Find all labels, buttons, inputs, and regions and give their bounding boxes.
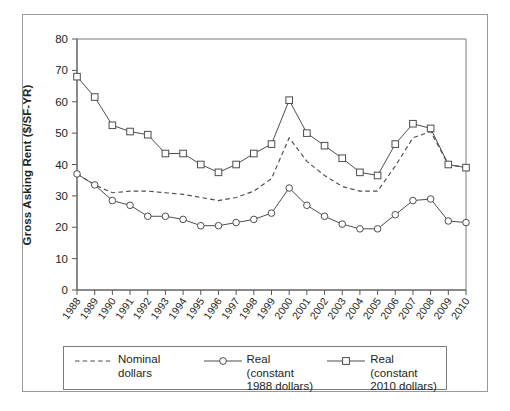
y-axis-tick-label: 80 <box>55 33 68 45</box>
data-point-marker <box>144 213 151 220</box>
x-axis-tick-label: 2005 <box>360 295 383 321</box>
x-axis-tick-label: 2001 <box>289 295 312 321</box>
x-axis-tick-label: 1992 <box>130 295 153 321</box>
x-axis-tick-label: 1989 <box>77 295 100 321</box>
y-axis-tick-label: 30 <box>55 190 68 202</box>
data-point-marker <box>374 226 381 233</box>
x-axis-tick-label: 2000 <box>272 295 295 321</box>
data-point-marker <box>109 197 116 204</box>
figure: Gross Asking Rent ($/SF-YR) 010203040506… <box>0 0 510 411</box>
data-point-marker <box>357 169 364 176</box>
data-point-marker <box>233 219 240 226</box>
x-axis-tick-label: 2009 <box>431 295 454 321</box>
data-point-marker <box>304 202 311 209</box>
x-axis-tick-label: 2006 <box>378 295 401 321</box>
data-point-marker <box>144 131 151 138</box>
data-point-marker <box>251 216 258 223</box>
series-line-2 <box>77 77 466 176</box>
data-point-marker <box>339 221 346 228</box>
data-point-marker <box>410 120 417 127</box>
data-point-marker <box>286 185 293 192</box>
data-point-marker <box>109 122 116 129</box>
data-point-marker <box>357 226 364 233</box>
data-point-marker <box>339 155 346 162</box>
data-point-marker <box>162 150 169 157</box>
data-point-marker <box>197 161 204 168</box>
data-point-marker <box>251 150 258 157</box>
data-point-marker <box>91 182 98 189</box>
data-point-marker <box>321 142 328 149</box>
data-point-marker <box>286 97 293 104</box>
data-point-marker <box>74 73 81 80</box>
data-point-marker <box>427 196 434 203</box>
data-point-marker <box>162 213 169 220</box>
y-axis-tick-label: 0 <box>62 284 68 296</box>
data-point-marker <box>268 141 275 148</box>
data-point-marker <box>445 161 452 168</box>
data-point-marker <box>127 128 134 135</box>
data-point-marker <box>74 171 81 178</box>
data-point-marker <box>392 141 399 148</box>
plot-frame <box>77 39 466 290</box>
data-point-marker <box>215 169 222 176</box>
data-point-marker <box>463 219 470 226</box>
x-axis-tick-label: 2003 <box>325 295 348 321</box>
data-point-marker <box>197 222 204 229</box>
data-point-marker <box>233 161 240 168</box>
x-axis-tick-label: 2008 <box>413 295 436 321</box>
data-point-marker <box>180 216 187 223</box>
legend-item-nominal-dollars: Nominal dollars <box>74 353 191 380</box>
data-point-marker <box>180 150 187 157</box>
y-axis-tick-label: 50 <box>55 127 68 139</box>
data-point-marker <box>215 222 222 229</box>
legend-sample-dashed-icon <box>74 354 114 368</box>
legend-label-real-2010: Real (constant 2010 dollars) <box>370 353 438 394</box>
data-point-marker <box>410 197 417 204</box>
x-axis-tick-label: 2007 <box>395 295 418 321</box>
data-point-marker <box>392 211 399 218</box>
legend-sample-circle-icon <box>203 354 243 368</box>
x-axis-tick-label: 1996 <box>201 295 224 321</box>
legend-item-real-2010: Real (constant 2010 dollars) <box>326 353 438 394</box>
data-point-marker <box>463 164 470 171</box>
legend-label-nominal-dollars: Nominal dollars <box>118 353 191 380</box>
x-axis-tick-label: 2010 <box>448 295 471 321</box>
data-point-marker <box>427 125 434 132</box>
x-axis-tick-label: 1988 <box>59 295 82 321</box>
data-point-marker <box>304 130 311 137</box>
data-point-marker <box>374 172 381 179</box>
chart-legend: Nominal dollars Real (constant 1988 doll… <box>63 346 447 390</box>
legend-label-real-1988: Real (constant 1988 dollars) <box>247 353 315 394</box>
y-axis-tick-label: 60 <box>55 96 68 108</box>
x-axis-tick-label: 1990 <box>95 295 118 321</box>
data-point-marker <box>321 213 328 220</box>
data-point-marker <box>445 218 452 225</box>
series-line-1 <box>77 174 466 229</box>
y-axis-tick-label: 70 <box>55 64 68 76</box>
x-axis-tick-label: 1993 <box>148 295 171 321</box>
x-axis-tick-label: 1999 <box>254 295 277 321</box>
y-axis-tick-label: 10 <box>55 253 68 265</box>
x-axis-tick-label: 1997 <box>219 295 242 321</box>
data-point-marker <box>268 210 275 217</box>
x-axis-tick-label: 1998 <box>236 295 259 321</box>
x-axis-tick-label: 1995 <box>183 295 206 321</box>
legend-sample-square-icon <box>326 354 366 368</box>
y-axis-tick-label: 20 <box>55 221 68 233</box>
data-point-marker <box>91 94 98 101</box>
x-axis-tick-label: 2004 <box>342 295 365 321</box>
data-point-marker <box>127 202 134 209</box>
x-axis-tick-label: 1991 <box>112 295 135 321</box>
legend-item-real-1988: Real (constant 1988 dollars) <box>203 353 315 394</box>
x-axis-tick-label: 1994 <box>166 295 189 321</box>
y-axis-tick-label: 40 <box>55 159 68 171</box>
x-axis-tick-label: 2002 <box>307 295 330 321</box>
